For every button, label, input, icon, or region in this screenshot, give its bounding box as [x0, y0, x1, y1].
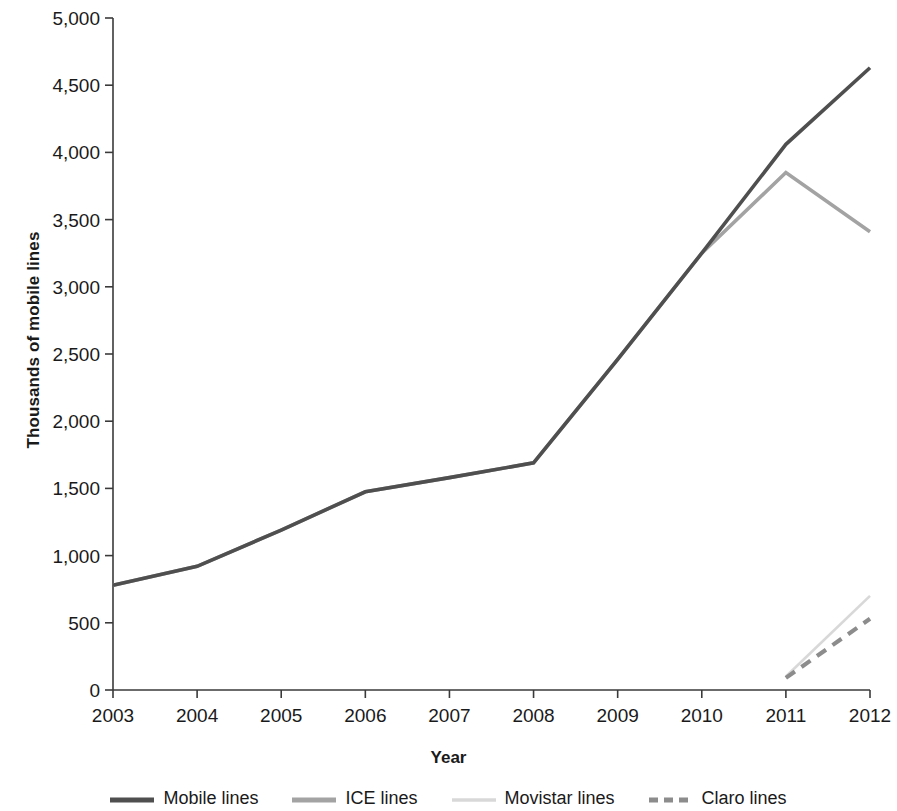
plot-area — [0, 0, 897, 760]
x-axis-tick-label: 2003 — [71, 706, 155, 725]
x-axis-tick-label: 2010 — [660, 706, 744, 725]
legend-item[interactable]: Mobile lines — [110, 788, 258, 808]
legend-label: ICE lines — [345, 788, 417, 808]
legend-swatch-line-icon — [110, 792, 154, 804]
series-line-mobile-lines — [113, 68, 870, 585]
x-axis-tick-label: 2011 — [744, 706, 828, 725]
chart-legend: Mobile linesICE linesMovistar linesClaro… — [0, 784, 897, 811]
legend-label: Mobile lines — [163, 788, 258, 808]
legend-swatch-line-icon — [452, 792, 496, 804]
line-chart-figure: Thousands of mobile lines 5,0004,5004,00… — [0, 0, 897, 811]
x-axis-tick-label: 2012 — [828, 706, 897, 725]
legend-item[interactable]: Claro lines — [649, 788, 787, 808]
chart-canvas — [0, 0, 897, 760]
series-line-claro-lines — [786, 619, 870, 678]
x-axis-tick-labels: 2003200420052006200720082009201020112012 — [0, 706, 897, 732]
x-axis-tick-label: 2006 — [323, 706, 407, 725]
x-axis-tick-label: 2005 — [239, 706, 323, 725]
legend-swatch-line-icon — [292, 792, 336, 804]
x-axis-tick-label: 2008 — [492, 706, 576, 725]
series-line-movistar-lines — [786, 596, 870, 677]
x-axis-tick-label: 2009 — [576, 706, 660, 725]
legend-swatch-line-icon — [649, 792, 693, 804]
legend-item[interactable]: ICE lines — [292, 788, 417, 808]
legend-label: Movistar lines — [505, 788, 615, 808]
x-axis-tick-label: 2007 — [407, 706, 491, 725]
x-axis-tick-label: 2004 — [155, 706, 239, 725]
x-axis-title: Year — [0, 748, 897, 768]
legend-label: Claro lines — [702, 788, 787, 808]
series-line-ice-lines — [113, 173, 870, 586]
legend-item[interactable]: Movistar lines — [452, 788, 615, 808]
